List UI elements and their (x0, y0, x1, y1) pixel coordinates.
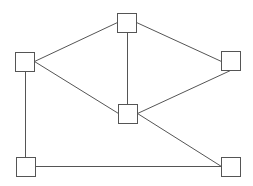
edge-right-center (138, 71, 231, 114)
graph-diagram (0, 0, 253, 186)
node-right (222, 52, 241, 71)
edge-left-center (35, 62, 119, 114)
edge-top-center-right (137, 23, 222, 62)
node-left (16, 53, 35, 72)
node-center (119, 105, 138, 124)
node-bottom-left (17, 158, 36, 177)
edge-center-bottom-right (138, 114, 222, 167)
edge-top-center-left (35, 23, 118, 62)
edges-group (26, 23, 231, 167)
node-bottom-right (222, 158, 241, 177)
node-top-center (118, 14, 137, 33)
